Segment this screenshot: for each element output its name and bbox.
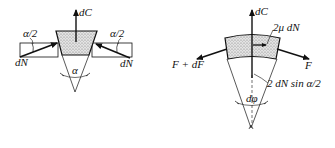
alpha-label: α <box>72 64 78 76</box>
alpha-half-label-left: α/2 <box>23 27 38 39</box>
figure-canvas: dC α/2 α/2 dN dN α dC 2μ dN <box>0 0 335 148</box>
normal-resultant-leader <box>254 74 268 83</box>
alpha-tick-right <box>86 73 90 76</box>
tension-label-right: F <box>304 59 312 71</box>
alpha-half-label-right: α/2 <box>110 27 125 39</box>
dN-label-left: dN <box>15 56 29 68</box>
dN-arrow-right <box>96 44 130 58</box>
dC-label-left: dC <box>79 6 93 18</box>
friction-label: 2μ dN <box>273 21 300 33</box>
dphi-label: dφ <box>246 92 258 104</box>
alpha-half-arc-left <box>32 43 33 52</box>
tension-arrow-right <box>277 49 309 59</box>
right-panel-belt-element: dC 2μ dN F + dF F 2 dN sin α/2 dφ <box>171 5 321 129</box>
dN-arrow-left <box>20 43 57 57</box>
normal-resultant-label: 2 dN sin α/2 <box>267 77 321 89</box>
alpha-half-arc-right <box>117 43 118 52</box>
left-panel-v-belt: dC α/2 α/2 dN dN α <box>15 6 134 92</box>
dphi-tick-right <box>264 101 268 104</box>
dN-label-right: dN <box>120 57 134 69</box>
dphi-tick-left <box>235 101 239 104</box>
tension-label-left: F + dF <box>171 58 204 70</box>
dC-label-right: dC <box>255 5 269 17</box>
alpha-tick-left <box>60 73 64 76</box>
